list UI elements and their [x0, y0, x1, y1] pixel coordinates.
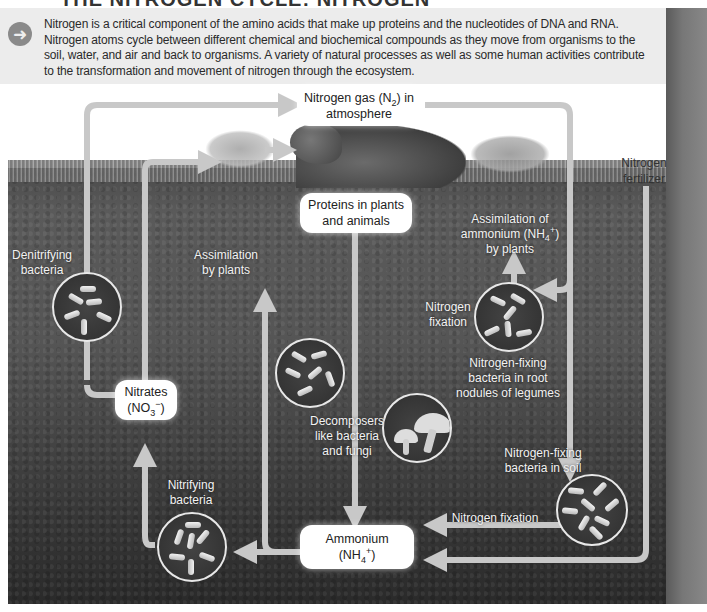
box-nitrates: Nitrates (NO3−) — [115, 380, 177, 420]
label-nitrogen-fixation-soil: Nitrogen fixation — [440, 511, 550, 526]
label-nitrogen-fertilizer: Nitrogenfertilizer — [612, 155, 676, 187]
label-denitrifying-bacteria: Denitrifyingbacteria — [6, 248, 78, 278]
bacteria-circle-decomposer — [275, 338, 345, 408]
label-assimilation-ammonium: Assimilation of ammonium (NH4+) by plant… — [450, 212, 570, 257]
label-nitrogen-fixation-legume: Nitrogenfixation — [420, 300, 476, 330]
bacteria-circle-root-nodules — [474, 282, 544, 352]
bacteria-circle-nitrifying — [157, 512, 227, 582]
box-nitrogen-gas: Nitrogen gas (N2) in atmosphere — [297, 86, 421, 126]
label-nitrogen-fixing-soil: Nitrogen-fixingbacteria in soil — [490, 446, 596, 476]
label-nitrogen-fixing-root-nodules: Nitrogen-fixingbacteria in rootnodules o… — [450, 356, 566, 401]
label-decomposers: Decomposerslike bacteriaand fungi — [306, 414, 388, 459]
mushroom-circle — [382, 393, 452, 463]
box-ammonium: Ammonium (NH4+) — [300, 525, 414, 569]
bacteria-circle-soil — [556, 474, 628, 546]
bacteria-circle-denitrifying — [52, 272, 122, 342]
label-assimilation-by-plants: Assimilationby plants — [188, 248, 264, 278]
box-proteins: Proteins in plants and animals — [300, 193, 412, 233]
label-nitrifying-bacteria: Nitrifyingbacteria — [158, 478, 224, 508]
